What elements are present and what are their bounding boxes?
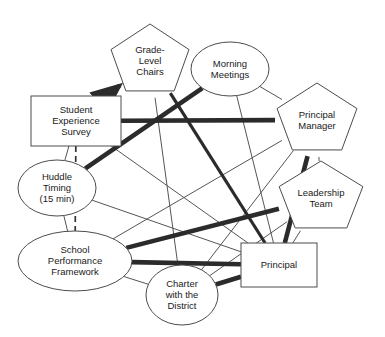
node-morning_meetings[interactable]: MorningMeetings [191, 42, 269, 96]
node-charter_with_district[interactable]: Charterwith theDistrict [146, 265, 218, 325]
node-leadership_team[interactable]: LeadershipTeam [279, 161, 363, 228]
node-layer: Grade-LevelChairsMorningMeetingsPrincipa… [18, 24, 363, 325]
edge-leadership_team-to-principal [293, 231, 301, 243]
node-shape-rect [31, 96, 121, 146]
edge-principal_manager-to-school_performance_framework [113, 140, 282, 238]
diagram-canvas: Grade-LevelChairsMorningMeetingsPrincipa… [0, 0, 385, 337]
edge-principal-to-school_performance_framework [132, 262, 241, 264]
network-diagram: Grade-LevelChairsMorningMeetingsPrincipa… [0, 0, 385, 337]
node-principal_manager[interactable]: PrincipalManager [277, 83, 357, 150]
node-shape-ellipse [18, 160, 96, 216]
node-shape-ellipse [146, 265, 218, 325]
node-school_performance_framework[interactable]: SchoolPerformanceFramework [18, 231, 132, 291]
edge-principal-to-charter_with_district [216, 277, 241, 285]
node-shape-rect [241, 243, 317, 287]
node-grade_level_chairs[interactable]: Grade-LevelChairs [111, 24, 189, 91]
node-principal[interactable]: Principal [241, 243, 317, 287]
edge-charter_with_district-to-school_performance_framework [124, 277, 149, 285]
edge-student_experience_survey-to-grade_level_chairs [107, 86, 120, 96]
node-shape-pentagon [279, 161, 363, 228]
node-shape-pentagon [277, 83, 357, 150]
node-huddle_timing[interactable]: HuddleTiming(15 min) [18, 160, 96, 216]
node-shape-pentagon [111, 24, 189, 91]
edge-school_performance_framework-to-huddle_timing [64, 216, 68, 232]
edge-huddle_timing-to-student_experience_survey [65, 146, 69, 161]
node-student_experience_survey[interactable]: StudentExperienceSurvey [31, 96, 121, 146]
node-shape-ellipse [191, 42, 269, 96]
edge-morning_meetings-to-principal [237, 96, 274, 243]
edge-principal_manager-to-student_experience_survey [121, 120, 275, 121]
edge-morning_meetings-to-principal_manager [260, 86, 282, 99]
node-shape-ellipse [18, 231, 132, 291]
edge-principal-to-grade_level_chairs [170, 93, 265, 243]
